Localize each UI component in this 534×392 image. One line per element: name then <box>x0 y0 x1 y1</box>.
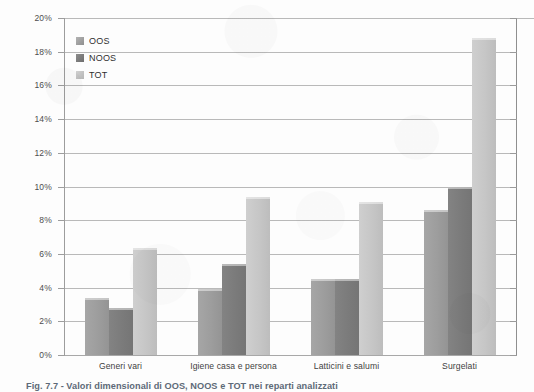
y-tick-mark-right-16 <box>510 85 517 86</box>
gridline-0 <box>64 355 516 356</box>
y-tick-label-4: 4% <box>0 283 52 293</box>
y-tick-mark-right-10 <box>510 187 517 188</box>
y-tick-label-20: 20% <box>0 13 52 23</box>
y-tick-mark-right-12 <box>510 153 517 154</box>
legend-item-noos: NOOS <box>76 51 116 65</box>
y-tick-label-0: 0% <box>0 350 52 360</box>
y-tick-label-14: 14% <box>0 114 52 124</box>
chart-legend: OOS NOOS TOT <box>76 34 116 85</box>
legend-item-tot: TOT <box>76 68 116 82</box>
legend-swatch-tot-icon <box>76 71 84 79</box>
bar-noos <box>335 279 359 355</box>
y-tick-mark-right-6 <box>510 254 517 255</box>
y-tick-mark-right-2 <box>510 321 517 322</box>
y-tick-label-2: 2% <box>0 316 52 326</box>
bar-noos <box>448 187 472 356</box>
legend-swatch-noos-icon <box>76 54 84 62</box>
bar-oos <box>85 298 109 355</box>
legend-label-oos: OOS <box>89 36 110 46</box>
bar-group <box>311 18 383 355</box>
y-tick-mark-right-4 <box>510 288 517 289</box>
bar-tot <box>246 197 270 355</box>
legend-label-tot: TOT <box>89 70 107 80</box>
y-tick-mark-right-18 <box>510 52 517 53</box>
bar-noos <box>222 264 246 355</box>
category-label: Surgelati <box>403 361 516 371</box>
bar-group <box>424 18 496 355</box>
y-tick-label-12: 12% <box>0 148 52 158</box>
bar-noos <box>109 308 133 355</box>
y-axis-left <box>64 18 65 356</box>
chart-figure: 0%2%4%6%8%10%12%14%16%18%20% Generi vari… <box>0 0 534 392</box>
y-tick-label-8: 8% <box>0 215 52 225</box>
bar-tot <box>133 248 157 355</box>
bar-oos <box>424 210 448 355</box>
y-tick-label-10: 10% <box>0 182 52 192</box>
category-label: Generi vari <box>64 361 177 371</box>
y-tick-mark-right-8 <box>510 220 517 221</box>
legend-label-noos: NOOS <box>89 53 116 63</box>
bar-tot <box>359 202 383 355</box>
gridline-top-extension <box>516 18 534 19</box>
bar-oos <box>311 279 335 355</box>
y-tick-label-16: 16% <box>0 80 52 90</box>
y-tick-mark-right-14 <box>510 119 517 120</box>
plot-area <box>64 18 516 355</box>
y-tick-mark-right-0 <box>510 355 517 356</box>
bar-oos <box>198 289 222 355</box>
legend-item-oos: OOS <box>76 34 116 48</box>
bar-tot <box>472 38 496 355</box>
y-tick-label-18: 18% <box>0 47 52 57</box>
bar-group <box>198 18 270 355</box>
y-tick-label-6: 6% <box>0 249 52 259</box>
legend-swatch-oos-icon <box>76 37 84 45</box>
figure-caption: Fig. 7.7 - Valori dimensionali di OOS, N… <box>26 381 526 392</box>
y-tick-mark-right-20 <box>510 18 517 19</box>
category-label: Latticini e salumi <box>290 361 403 371</box>
category-label: Igiene casa e persona <box>177 361 290 371</box>
